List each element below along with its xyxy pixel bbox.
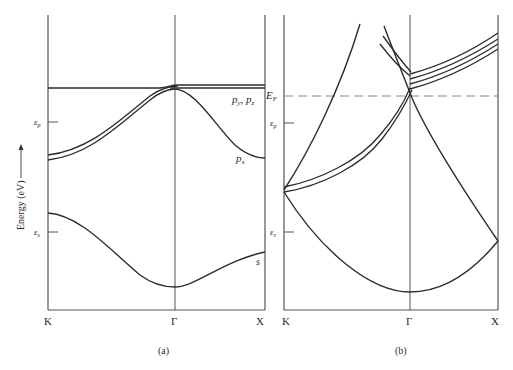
band-p-rising-upper — [48, 86, 178, 155]
band-b-parabola — [284, 192, 498, 292]
epsilon-s-label-b: εs — [270, 227, 277, 238]
band-b-quad-3 — [410, 44, 498, 84]
y-axis-label: Energy (eV) — [15, 144, 27, 230]
tick-gamma-b: Γ — [406, 315, 412, 327]
band-s — [48, 213, 265, 287]
panel-b: EF εp εs K Γ X (b) — [265, 15, 499, 357]
panel-a: εp εs py, pz px s K Γ X (a) — [34, 15, 265, 357]
caption-a: (a) — [158, 345, 169, 357]
band-b-quad-4 — [410, 49, 498, 89]
caption-b: (b) — [395, 345, 407, 357]
band-label-pypz: py, pz — [231, 93, 255, 107]
band-p-rising-lower — [48, 89, 175, 160]
tick-gamma-a: Γ — [171, 315, 177, 327]
band-label-s: s — [256, 256, 260, 267]
tick-k-b: K — [282, 315, 290, 327]
tick-k-a: K — [44, 315, 52, 327]
tick-x-b: X — [491, 315, 499, 327]
band-b-converge-1 — [380, 44, 410, 76]
tick-x-a: X — [256, 315, 264, 327]
band-label-px: px — [235, 152, 246, 166]
epsilon-s-label-a: εs — [34, 227, 41, 238]
band-b-double-lower — [284, 90, 412, 192]
fermi-label: EF — [265, 89, 278, 103]
svg-text:Energy (eV): Energy (eV) — [15, 180, 27, 230]
band-b-double-upper — [284, 88, 410, 187]
epsilon-p-label-a: εp — [34, 117, 41, 128]
band-b-steep-descending — [384, 26, 498, 241]
band-structure-figure: εp εs py, pz px s K Γ X (a) Energy (eV) … — [0, 0, 513, 370]
epsilon-p-label-b: εp — [270, 118, 277, 129]
band-b-steep-k — [284, 24, 360, 190]
